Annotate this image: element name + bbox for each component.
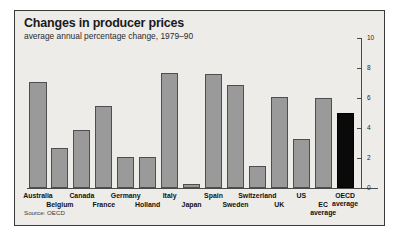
x-label-line: UK bbox=[274, 201, 284, 209]
x-label-line: France bbox=[92, 201, 115, 209]
source-note: Source: OECD bbox=[24, 209, 65, 217]
x-label-sweden: Sweden bbox=[222, 201, 248, 209]
y-tick bbox=[357, 158, 362, 159]
bar-slot bbox=[246, 38, 268, 188]
bar-slot bbox=[93, 38, 115, 188]
x-label-us: US bbox=[296, 192, 306, 200]
bar-us bbox=[293, 139, 310, 189]
y-tick bbox=[357, 188, 362, 189]
bar-slot bbox=[137, 38, 159, 188]
y-tick-label: 2 bbox=[367, 154, 381, 161]
bar-canada bbox=[73, 130, 90, 189]
bar-holland bbox=[139, 157, 156, 189]
x-label-line: Japan bbox=[182, 201, 202, 209]
bar-slot bbox=[159, 38, 181, 188]
y-tick-label: 6 bbox=[367, 94, 381, 101]
bar-ec-average bbox=[315, 98, 332, 188]
bar-slot bbox=[49, 38, 71, 188]
x-label-line: average bbox=[310, 209, 336, 217]
y-tick-label: 0 bbox=[367, 184, 381, 191]
y-tick-label: 10 bbox=[367, 34, 381, 41]
y-tick bbox=[357, 128, 362, 129]
bar-slot bbox=[312, 38, 334, 188]
bar-slot bbox=[27, 38, 49, 188]
x-label-line: Spain bbox=[204, 192, 223, 200]
x-label-spain: Spain bbox=[204, 192, 223, 200]
x-label-canada: Canada bbox=[69, 192, 94, 200]
bar-slot bbox=[290, 38, 312, 188]
x-label-slot: US bbox=[290, 191, 312, 225]
bar-slot bbox=[181, 38, 203, 188]
bar-italy bbox=[161, 73, 178, 189]
x-label-belgium: Belgium bbox=[46, 201, 73, 209]
y-tick-label: 8 bbox=[367, 64, 381, 71]
bar-slot bbox=[224, 38, 246, 188]
x-label-france: France bbox=[92, 201, 115, 209]
bar-oecd-average bbox=[337, 113, 354, 188]
bar-switzerland bbox=[249, 166, 266, 189]
x-label-slot: Italy bbox=[159, 191, 181, 225]
x-label-holland: Holland bbox=[135, 201, 160, 209]
bar-slot bbox=[71, 38, 93, 188]
y-axis-line bbox=[361, 38, 362, 189]
bar-uk bbox=[271, 97, 288, 189]
x-label-slot: OECDaverage bbox=[334, 191, 356, 225]
bar-france bbox=[95, 106, 112, 189]
x-label-slot: Canada bbox=[71, 191, 93, 225]
x-label-uk: UK bbox=[274, 201, 284, 209]
x-label-line: average bbox=[332, 200, 358, 208]
bar-slot bbox=[115, 38, 137, 188]
chart-figure: Changes in producer prices average annua… bbox=[14, 10, 385, 226]
bar-australia bbox=[29, 82, 46, 189]
x-axis-labels: AustraliaBelgiumCanadaFranceGermanyHolla… bbox=[27, 191, 356, 225]
bar-spain bbox=[205, 74, 222, 188]
x-label-line: Sweden bbox=[222, 201, 248, 209]
y-tick bbox=[357, 68, 362, 69]
x-label-slot: Germany bbox=[115, 191, 137, 225]
x-label-line: Canada bbox=[69, 192, 94, 200]
bar-slot bbox=[334, 38, 356, 188]
bar-sweden bbox=[227, 85, 244, 189]
x-label-italy: Italy bbox=[163, 192, 177, 200]
y-tick bbox=[357, 38, 362, 39]
x-label-line: Italy bbox=[163, 192, 177, 200]
x-label-slot: Spain bbox=[203, 191, 225, 225]
x-label-japan: Japan bbox=[182, 201, 202, 209]
x-label-line: US bbox=[296, 192, 306, 200]
y-tick bbox=[357, 98, 362, 99]
x-axis-line bbox=[27, 188, 378, 189]
bar-germany bbox=[117, 157, 134, 189]
bar-belgium bbox=[51, 148, 68, 189]
x-label-oecd-average: OECDaverage bbox=[332, 192, 358, 208]
x-label-slot: Japan bbox=[181, 191, 203, 225]
x-label-slot: UK bbox=[268, 191, 290, 225]
bar-slot bbox=[268, 38, 290, 188]
x-label-slot: Belgium bbox=[49, 191, 71, 225]
bar-slot bbox=[203, 38, 225, 188]
plot-area bbox=[27, 38, 356, 188]
bar-series bbox=[27, 38, 356, 188]
y-tick-label: 4 bbox=[367, 124, 381, 131]
chart-title: Changes in producer prices bbox=[24, 16, 344, 30]
x-label-slot: ECaverage bbox=[312, 191, 334, 225]
x-label-slot: Holland bbox=[137, 191, 159, 225]
x-label-line: Belgium bbox=[46, 201, 73, 209]
x-label-line: OECD bbox=[332, 192, 358, 200]
x-label-line: Holland bbox=[135, 201, 160, 209]
x-label-slot: Switzerland bbox=[246, 191, 268, 225]
